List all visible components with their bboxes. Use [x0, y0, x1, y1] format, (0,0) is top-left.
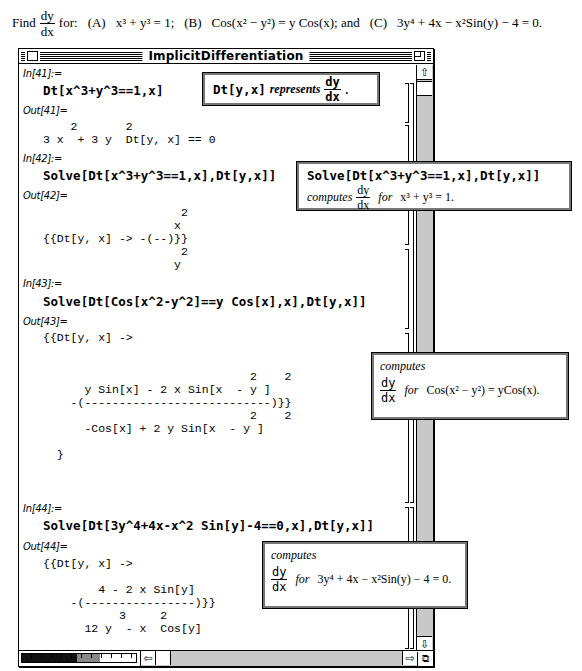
- dy-dx-fraction: dy dx: [271, 566, 287, 593]
- callout-text: computes: [380, 359, 560, 374]
- scroll-up-arrow-icon[interactable]: ⇧: [417, 65, 432, 80]
- dy-dx-fraction: dy dx: [40, 9, 55, 38]
- out-label: Out[41]=: [23, 105, 68, 116]
- dy-dx-fraction: dy dx: [356, 184, 370, 211]
- in-label: In[43]:=: [23, 278, 62, 289]
- callout-code: Solve[Dt[x^3+y^3==1,x],Dt[y,x]]: [307, 168, 561, 183]
- label-a: (A): [88, 15, 106, 31]
- in-label: In[42]:=: [23, 153, 62, 164]
- equation-c: 3y⁴ + 4x − x²Sin(y) − 4 = 0.: [397, 15, 542, 31]
- callout-equation: Cos(x² − y²) = yCos(x).: [426, 383, 539, 398]
- horizontal-scrollbar[interactable]: ⇦ ⇨: [140, 651, 417, 666]
- input-cell[interactable]: Dt[x^3+y^3==1,x]: [43, 83, 163, 98]
- output-cell: 2 2 3 x + 3 y Dt[y, x] == 0: [43, 120, 216, 146]
- output-cell: {{Dt[y, x] -> 4 - 2 x Sin[y] -(---------…: [43, 557, 216, 635]
- for-label: for:: [59, 15, 78, 31]
- label-c: (C): [370, 15, 387, 31]
- close-box-icon[interactable]: [27, 51, 38, 61]
- horizontal-bar: ⇦ ⇨ ⧉: [19, 650, 433, 666]
- cell-bracket[interactable]: [405, 83, 409, 123]
- callout-equation: 3y⁴ + 4x − x²Sin(y) − 4 = 0.: [317, 572, 451, 587]
- out-label: Out[44]=: [23, 541, 68, 552]
- callout-text: computes: [307, 190, 352, 205]
- callout-text: represents: [270, 82, 321, 97]
- callout-equation: x³ + y³ = 1.: [400, 190, 454, 205]
- input-cell[interactable]: Solve[Dt[Cos[x^2-y^2]==y Cos[x],x],Dt[y,…: [43, 294, 367, 309]
- callout-code: Dt[y,x]: [213, 82, 266, 97]
- vertical-scroll-thumb[interactable]: [417, 81, 432, 96]
- callout-dt-definition: Dt[y,x] represents dy dx .: [202, 72, 380, 106]
- equation-b: Cos(x² − y²) = y Cos(x);: [212, 15, 338, 31]
- title-bar[interactable]: ImplicitDifferentiation: [19, 49, 433, 64]
- magnification-slider[interactable]: [21, 653, 137, 663]
- output-cell: {{Dt[y, x] -> 2 2 y Sin[x] - 2 x Sin[x -…: [43, 331, 291, 461]
- dy-dx-fraction: dy dx: [324, 76, 340, 103]
- callout-text: computes: [271, 548, 459, 563]
- window-title: ImplicitDifferentiation: [142, 49, 309, 63]
- input-cell[interactable]: Solve[Dt[3y^4+4x-x^2 Sin[y]-4==0,x],Dt[y…: [43, 518, 374, 533]
- zoom-box-icon[interactable]: [414, 51, 425, 61]
- equation-a: x³ + y³ = 1;: [116, 15, 175, 31]
- in-label: In[41]:=: [23, 68, 62, 79]
- out-label: Out[42]=: [23, 190, 68, 201]
- dy-dx-fraction: dy dx: [380, 377, 396, 404]
- input-cell[interactable]: Solve[Dt[x^3+y^3==1,x],Dt[y,x]]: [43, 168, 276, 183]
- group-bracket[interactable]: [410, 83, 414, 503]
- callout-solve-c: computes dy dx for 3y⁴ + 4x − x²Sin(y) −…: [262, 541, 468, 609]
- find-label: Find: [12, 15, 36, 31]
- cell-bracket[interactable]: [405, 249, 409, 329]
- problem-statement: Find dy dx for: (A) x³ + y³ = 1; (B) Cos…: [12, 6, 542, 40]
- scroll-down-arrow-icon[interactable]: ⇩: [417, 636, 432, 651]
- callout-solve-a: Solve[Dt[x^3+y^3==1,x],Dt[y,x]] computes…: [296, 161, 572, 211]
- label-b: (B): [184, 15, 201, 31]
- scroll-left-arrow-icon[interactable]: ⇦: [141, 651, 156, 665]
- resize-grow-icon[interactable]: ⧉: [417, 652, 433, 666]
- horizontal-scroll-thumb[interactable]: [156, 651, 171, 665]
- in-label: In[44]:=: [23, 503, 62, 514]
- out-label: Out[43]=: [23, 316, 68, 327]
- callout-solve-b: computes dy dx for Cos(x² − y²) = yCos(x…: [371, 352, 569, 420]
- and-label: and: [341, 15, 360, 31]
- output-cell: 2 x {{Dt[y, x] -> -(--)}} 2 y: [43, 206, 188, 271]
- scroll-right-arrow-icon[interactable]: ⇨: [402, 651, 417, 665]
